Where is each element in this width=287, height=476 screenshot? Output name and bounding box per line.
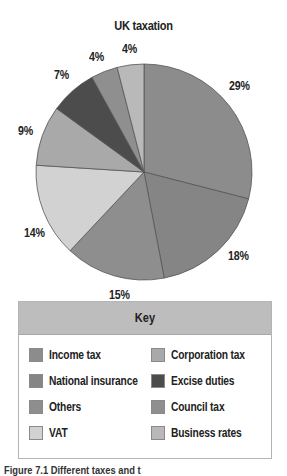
legend-item-vat: VAT — [29, 425, 72, 441]
swatch-national-insurance — [29, 374, 43, 388]
legend-item-excise-duties: Excise duties — [151, 373, 248, 389]
legend-key: Key Income tax National insurance Others… — [18, 301, 272, 459]
label-excise-duties: 7% — [54, 68, 69, 82]
label-council-tax: 4% — [89, 50, 104, 64]
swatch-corporation-tax — [151, 348, 165, 362]
swatch-vat — [29, 426, 43, 440]
legend-item-national-insurance: National insurance — [29, 373, 157, 389]
label-national-insurance: 18% — [228, 249, 249, 263]
label-business-rates: 4% — [122, 42, 137, 56]
label-corporation-tax: 9% — [18, 124, 33, 138]
legend-item-income-tax: Income tax — [29, 347, 112, 363]
swatch-business-rates — [151, 426, 165, 440]
swatch-excise-duties — [151, 374, 165, 388]
legend-item-business-rates: Business rates — [151, 425, 257, 441]
legend-title: Key — [19, 302, 271, 335]
legend-item-others: Others — [29, 399, 88, 415]
swatch-others — [29, 400, 43, 414]
label-income-tax: 29% — [229, 79, 250, 93]
legend-item-corporation-tax: Corporation tax — [151, 347, 261, 363]
label-vat: 14% — [24, 226, 45, 240]
legend-item-council-tax: Council tax — [151, 399, 236, 415]
label-others: 15% — [109, 288, 130, 302]
swatch-council-tax — [151, 400, 165, 414]
swatch-income-tax — [29, 348, 43, 362]
figure-caption: Figure 7.1 Different taxes and t — [4, 464, 141, 476]
